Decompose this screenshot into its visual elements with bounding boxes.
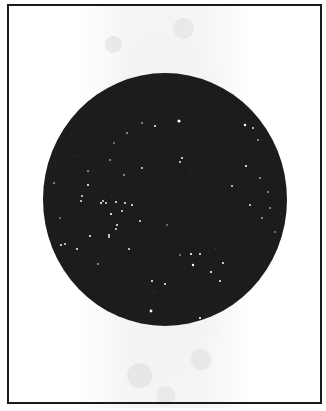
noise-speck	[233, 248, 234, 249]
noise-speck	[99, 283, 100, 284]
noise-speck	[166, 264, 167, 265]
noise-speck	[182, 304, 183, 305]
star	[150, 310, 153, 313]
noise-speck	[75, 252, 76, 253]
noise-speck	[186, 240, 187, 241]
star	[76, 248, 78, 250]
noise-speck	[175, 323, 176, 324]
noise-speck	[193, 88, 194, 89]
noise-speck	[154, 73, 155, 74]
noise-speck	[126, 178, 127, 179]
star	[108, 234, 110, 236]
noise-speck	[219, 153, 220, 154]
noise-speck	[72, 300, 73, 301]
noise-speck	[70, 156, 71, 157]
noise-speck	[83, 73, 84, 74]
star	[109, 159, 111, 161]
star	[219, 280, 221, 282]
noise-speck	[214, 76, 215, 77]
noise-speck	[225, 292, 226, 293]
noise-speck	[262, 99, 263, 100]
noise-speck	[128, 161, 129, 162]
noise-speck	[141, 129, 142, 130]
star	[87, 170, 89, 172]
noise-speck	[206, 144, 207, 145]
star	[199, 253, 201, 255]
noise-speck	[254, 177, 255, 178]
noise-speck	[245, 118, 246, 119]
noise-speck	[226, 270, 227, 271]
noise-speck	[264, 247, 265, 248]
noise-speck	[63, 90, 64, 91]
star	[128, 248, 130, 250]
noise-speck	[114, 325, 115, 326]
noise-speck	[64, 108, 65, 109]
noise-speck	[74, 155, 75, 156]
noise-speck	[98, 117, 99, 118]
star	[141, 167, 143, 169]
noise-speck	[48, 112, 49, 113]
noise-speck	[150, 168, 151, 169]
star	[259, 177, 261, 179]
noise-speck	[64, 150, 65, 151]
star	[123, 174, 125, 176]
noise-speck	[189, 173, 190, 174]
noise-speck	[119, 306, 120, 307]
star-field-plate	[43, 73, 287, 326]
noise-speck	[244, 261, 245, 262]
noise-speck	[226, 306, 227, 307]
noise-speck	[84, 322, 85, 323]
noise-speck	[277, 227, 278, 228]
star	[261, 217, 263, 219]
noise-speck	[261, 216, 262, 217]
noise-speck	[224, 106, 225, 107]
noise-speck	[64, 126, 65, 127]
star	[108, 236, 110, 238]
noise-speck	[179, 279, 180, 280]
noise-speck	[72, 185, 73, 186]
noise-speck	[121, 163, 122, 164]
star	[190, 253, 192, 255]
noise-speck	[238, 177, 239, 178]
star	[124, 202, 126, 204]
noise-speck	[228, 238, 229, 239]
noise-speck	[228, 125, 229, 126]
noise-speck	[119, 279, 120, 280]
noise-speck	[194, 98, 195, 99]
star	[60, 244, 62, 246]
noise-speck	[108, 314, 109, 315]
star	[257, 139, 259, 141]
noise-speck	[137, 136, 138, 137]
noise-speck	[44, 164, 45, 165]
noise-speck	[50, 215, 51, 216]
noise-speck	[147, 250, 148, 251]
noise-speck	[101, 313, 102, 314]
noise-speck	[259, 312, 260, 313]
noise-speck	[141, 100, 142, 101]
noise-speck	[65, 198, 66, 199]
star	[154, 125, 156, 127]
noise-speck	[202, 172, 203, 173]
noise-speck	[233, 137, 234, 138]
noise-speck	[209, 236, 210, 237]
star	[87, 184, 89, 186]
noise-speck	[209, 251, 210, 252]
noise-speck	[174, 302, 175, 303]
noise-speck	[150, 94, 151, 95]
noise-speck	[99, 260, 100, 261]
noise-speck	[155, 112, 156, 113]
noise-speck	[64, 162, 65, 163]
noise-speck	[88, 149, 89, 150]
noise-speck	[127, 232, 128, 233]
noise-speck	[119, 78, 120, 79]
noise-speck	[71, 134, 72, 135]
star	[80, 200, 82, 202]
noise-speck	[154, 212, 155, 213]
noise-speck	[252, 317, 253, 318]
noise-speck	[155, 292, 156, 293]
noise-speck	[221, 197, 222, 198]
noise-speck	[117, 302, 118, 303]
noise-speck	[206, 112, 207, 113]
noise-speck	[181, 127, 182, 128]
noise-speck	[204, 293, 205, 294]
